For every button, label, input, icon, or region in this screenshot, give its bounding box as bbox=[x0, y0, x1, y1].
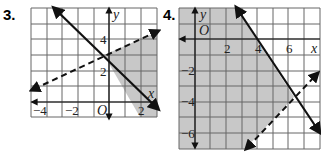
graph-3-x-label: x bbox=[147, 86, 155, 101]
graph-4-xtick-4: 4 bbox=[255, 41, 262, 56]
graph-3-ytick-2: 2 bbox=[100, 64, 107, 79]
graph-4-shaded-region bbox=[179, 8, 294, 149]
graphs-canvas: 4 2 −4 −2 2 O x y 2 4 6 −2 −4 −6 bbox=[0, 0, 321, 155]
graph-3-xtick-neg4: −4 bbox=[33, 103, 47, 118]
graph-4-ytick-neg2: −2 bbox=[181, 63, 195, 78]
graph-4-y-label: y bbox=[198, 7, 207, 22]
graph-3-ytick-4: 4 bbox=[100, 32, 107, 47]
graph-4-origin-label: O bbox=[199, 23, 209, 38]
graph-3-xtick-2: 2 bbox=[138, 103, 145, 118]
graph-3: 4 2 −4 −2 2 O x y bbox=[31, 7, 157, 118]
graph-4: 2 4 6 −2 −4 −6 O x y bbox=[179, 7, 320, 149]
graph-4-xtick-6: 6 bbox=[286, 41, 293, 56]
graph-3-xtick-neg2: −2 bbox=[65, 103, 79, 118]
graph-4-x-label: x bbox=[310, 41, 318, 56]
graph-4-ytick-neg4: −4 bbox=[181, 94, 195, 109]
graph-4-ytick-neg6: −6 bbox=[181, 126, 195, 141]
graph-3-origin-label: O bbox=[97, 103, 107, 118]
graph-3-y-label: y bbox=[111, 7, 120, 22]
graph-4-xtick-2: 2 bbox=[224, 41, 231, 56]
